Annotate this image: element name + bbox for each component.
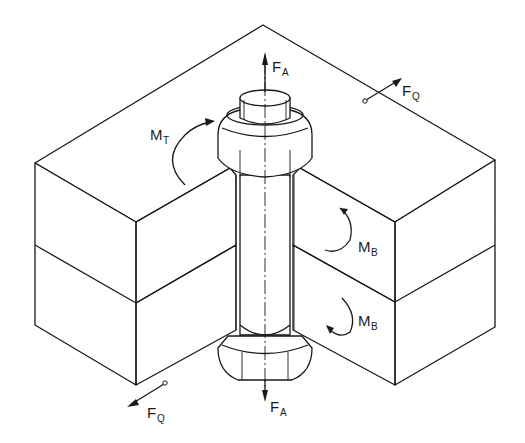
svg-text:B: B xyxy=(371,321,378,332)
bending-moment-lower-arrow: M B xyxy=(326,298,378,335)
bending-moment-upper-label: M xyxy=(358,238,371,255)
svg-text:Q: Q xyxy=(412,91,420,102)
svg-text:A: A xyxy=(280,407,287,418)
svg-text:B: B xyxy=(371,247,378,258)
axial-force-bottom-label: F xyxy=(270,398,279,415)
axial-force-bottom-arrow: F A xyxy=(262,380,287,418)
transverse-force-top-label: F xyxy=(402,82,411,99)
svg-text:Q: Q xyxy=(157,413,165,424)
bolted-joint-diagram: F A F A F Q F Q M T M B xyxy=(0,0,525,443)
svg-text:T: T xyxy=(163,135,169,146)
bending-moment-lower-label: M xyxy=(358,312,371,329)
torque-label: M xyxy=(150,126,163,143)
axial-force-top-label: F xyxy=(272,58,281,75)
svg-text:A: A xyxy=(282,67,289,78)
transverse-force-bottom-label: F xyxy=(147,404,156,421)
bending-moment-upper-arrow: M B xyxy=(325,208,378,258)
transverse-force-bottom-arrow: F Q xyxy=(127,381,167,424)
